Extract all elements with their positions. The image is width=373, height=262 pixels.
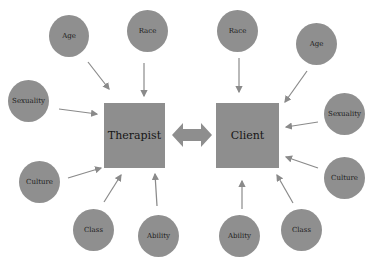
bidirectional-arrow-icon	[172, 123, 212, 147]
therapist-factor-sexuality: Sexuality	[8, 80, 49, 122]
arrow-class-to-client	[277, 175, 293, 203]
arrow-sexuality-to-therapist	[59, 109, 97, 114]
therapist-factor-class: Class	[73, 209, 114, 251]
diagram-canvas: Therapist Client Age Race Sexuality Cult…	[0, 0, 373, 262]
arrow-age-to-client	[285, 71, 307, 102]
client-factor-culture: Culture	[324, 157, 365, 199]
arrow-age-to-therapist	[88, 62, 109, 89]
factor-label: Culture	[26, 178, 53, 186]
arrow-ability-to-therapist	[155, 174, 157, 206]
factor-label: Culture	[331, 174, 358, 182]
factor-label: Race	[229, 27, 247, 35]
therapist-factor-age: Age	[49, 15, 89, 57]
factor-label: Age	[62, 32, 76, 40]
factor-label: Race	[139, 27, 157, 35]
therapist-label: Therapist	[108, 129, 161, 142]
factor-label: Age	[310, 40, 324, 48]
client-factor-race: Race	[217, 10, 258, 52]
factor-label: Class	[84, 226, 103, 234]
client-factor-class: Class	[281, 209, 322, 251]
therapist-node: Therapist	[104, 103, 165, 168]
factor-label: Ability	[147, 232, 170, 240]
arrow-culture-to-client	[286, 157, 318, 168]
arrow-culture-to-therapist	[68, 168, 101, 178]
factor-label: Sexuality	[12, 97, 45, 105]
therapist-factor-ability: Ability	[138, 215, 179, 257]
therapist-factor-culture: Culture	[19, 161, 60, 203]
client-node: Client	[216, 103, 279, 168]
factor-label: Ability	[228, 232, 251, 240]
factor-label: Sexuality	[328, 110, 361, 118]
client-factor-ability: Ability	[219, 215, 260, 257]
client-factor-age: Age	[296, 23, 337, 65]
factor-label: Class	[292, 226, 311, 234]
arrow-sexuality-to-client	[286, 122, 318, 127]
client-factor-sexuality: Sexuality	[324, 93, 365, 135]
client-label: Client	[231, 129, 264, 142]
therapist-factor-race: Race	[127, 10, 168, 52]
arrow-class-to-therapist	[104, 175, 121, 202]
